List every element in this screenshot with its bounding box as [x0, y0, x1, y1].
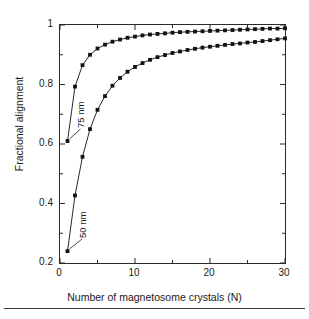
data-point-marker [88, 127, 92, 131]
data-point-marker [103, 43, 107, 47]
data-point-marker [111, 84, 115, 88]
axis-ticks [60, 25, 285, 263]
y-tick-label: 0.8 [39, 79, 53, 89]
data-point-marker [276, 27, 280, 31]
data-point-marker [223, 43, 227, 47]
chart-plot [60, 25, 285, 263]
data-point-marker [66, 249, 70, 253]
data-point-marker [171, 31, 175, 35]
data-point-marker [193, 47, 197, 51]
data-point-marker [133, 65, 137, 69]
data-point-marker [148, 58, 152, 62]
x-axis-tick-labels: 0102030 [0, 268, 309, 282]
leader-line [70, 129, 81, 139]
series-annotation-50nm: 50 nm [77, 212, 88, 238]
data-point-marker [126, 70, 130, 74]
y-tick-label: 1 [47, 19, 53, 29]
data-point-marker [276, 37, 280, 41]
data-point-marker [73, 85, 77, 89]
data-point-marker [163, 31, 167, 35]
x-tick-label: 30 [269, 268, 299, 278]
data-point-marker [186, 30, 190, 34]
data-point-marker [96, 47, 100, 51]
series-annotation-75nm: 75 nm [75, 102, 86, 128]
data-point-marker [231, 28, 235, 32]
data-point-marker [178, 50, 182, 54]
plot-area [59, 24, 286, 264]
data-point-marker [81, 155, 85, 159]
data-point-marker [208, 45, 212, 49]
data-point-marker [268, 27, 272, 31]
leader-line [70, 239, 82, 249]
data-point-marker [246, 41, 250, 45]
data-point-marker [261, 27, 265, 31]
data-point-marker [231, 42, 235, 46]
data-point-marker [253, 40, 257, 44]
data-point-marker [73, 194, 77, 198]
data-point-marker [156, 32, 160, 36]
x-tick-label: 20 [194, 268, 224, 278]
x-tick-label: 0 [44, 268, 74, 278]
data-point-marker [96, 108, 100, 112]
data-point-marker [238, 42, 242, 46]
data-point-marker [111, 40, 115, 44]
data-point-marker [171, 51, 175, 55]
data-point-marker [148, 33, 152, 37]
data-point-marker [201, 46, 205, 50]
data-point-marker [133, 35, 137, 39]
data-point-marker [201, 29, 205, 33]
data-point-marker [103, 94, 107, 98]
data-point-marker [261, 39, 265, 43]
data-point-marker [216, 44, 220, 48]
data-point-marker [186, 48, 190, 52]
x-axis-title: Number of magnetosome crystals (N) [0, 291, 309, 303]
data-point-marker [163, 53, 167, 57]
data-series [66, 36, 287, 253]
data-point-marker [126, 36, 130, 40]
y-tick-label: 0.6 [39, 138, 53, 148]
y-tick-label: 0.2 [39, 257, 53, 267]
data-point-marker [216, 29, 220, 33]
footer-divider [4, 308, 305, 309]
data-point-marker [118, 76, 122, 80]
data-point-marker [156, 55, 160, 59]
data-point-marker [283, 36, 287, 40]
data-point-marker [223, 28, 227, 32]
data-point-marker [118, 38, 122, 42]
data-point-marker [208, 29, 212, 33]
data-point-marker [81, 63, 85, 67]
data-point-marker [193, 30, 197, 34]
data-point-marker [66, 139, 70, 143]
figure-container: Fractional alignment 0.20.40.60.81 75 nm… [0, 0, 309, 319]
data-point-marker [283, 26, 287, 30]
data-point-marker [238, 28, 242, 32]
x-tick-label: 10 [119, 268, 149, 278]
data-point-marker [141, 34, 145, 38]
y-tick-label: 0.4 [39, 198, 53, 208]
data-point-marker [178, 30, 182, 34]
data-point-marker [141, 61, 145, 65]
data-point-marker [88, 53, 92, 57]
data-series-group [66, 26, 287, 253]
data-point-marker [268, 38, 272, 42]
data-point-marker [246, 28, 250, 32]
data-point-marker [253, 27, 257, 31]
